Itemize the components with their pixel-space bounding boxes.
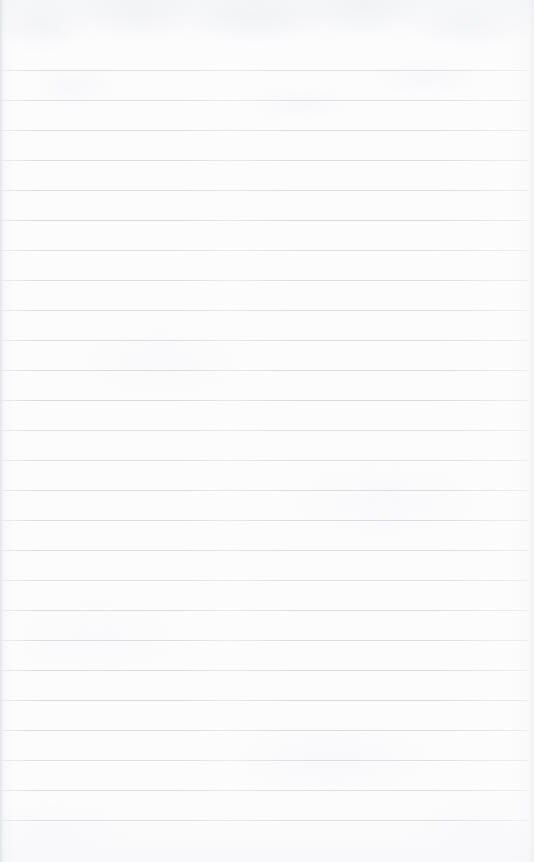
rule-line [0,370,528,371]
rule-line [0,280,528,281]
ruled-lines-group [0,0,534,862]
rule-line [0,400,528,401]
rule-line [0,670,528,671]
rule-line [0,730,528,731]
rule-line [0,760,528,761]
rule-line [0,310,528,311]
rule-line [0,430,528,431]
rule-line [0,790,528,791]
rule-line [0,460,528,461]
rule-line [0,70,528,71]
rule-line [0,520,528,521]
rule-line [0,190,528,191]
rule-line [0,340,528,341]
rule-line [0,220,528,221]
rule-line [0,640,528,641]
rule-line [0,130,528,131]
rule-line [0,490,528,491]
rule-line [0,550,528,551]
rule-line [0,820,528,821]
rule-line [0,160,528,161]
rule-line [0,580,528,581]
rule-line [0,700,528,701]
scanned-paper-page [0,0,534,862]
rule-line [0,250,528,251]
rule-line [0,100,528,101]
rule-line [0,610,528,611]
